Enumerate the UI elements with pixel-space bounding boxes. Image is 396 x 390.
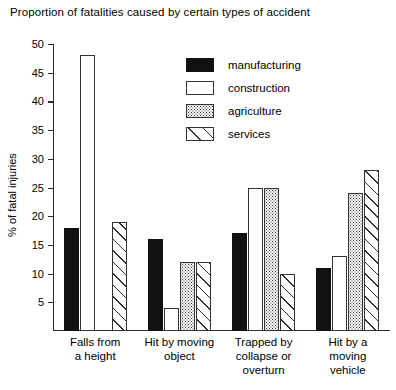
- x-axis-label-line: object: [137, 349, 221, 363]
- bar-manufacturing-0: [64, 228, 79, 331]
- x-axis-label-line: collapse or: [222, 349, 306, 363]
- legend-item-construction: construction: [186, 78, 346, 97]
- x-axis-label-line: Hit by moving: [137, 335, 221, 349]
- x-axis-label-line: a height: [53, 349, 137, 363]
- bar-manufacturing-2: [232, 233, 247, 331]
- y-tick-mark: 30: [48, 159, 53, 160]
- legend-item-services: services: [186, 124, 346, 143]
- x-axis-label-line: moving: [306, 349, 390, 363]
- y-tick-mark: 40: [48, 101, 53, 102]
- bar-construction-0: [80, 55, 95, 331]
- y-tick-label: 15: [32, 239, 44, 251]
- x-axis-label-line: Hit by a: [306, 335, 390, 349]
- legend-item-agriculture: agriculture: [186, 101, 346, 120]
- y-tick-label: 40: [32, 95, 44, 107]
- x-axis-label-line: Trapped by: [222, 335, 306, 349]
- y-tick-mark: 15: [48, 245, 53, 246]
- y-tick-mark: 10: [48, 274, 53, 275]
- bar-construction-3: [332, 256, 347, 331]
- chart-legend: manufacturingconstructionagricultureserv…: [186, 55, 346, 147]
- y-tick-label: 50: [32, 38, 44, 50]
- bar-services-1: [196, 262, 211, 331]
- y-tick-mark: 20: [48, 216, 53, 217]
- y-axis-title: % of fatal injuries: [6, 135, 18, 255]
- y-tick-mark: 45: [48, 73, 53, 74]
- legend-swatch-construction: [186, 81, 214, 95]
- x-axis-label-2: Trapped bycollapse oroverturn: [222, 335, 306, 377]
- bar-manufacturing-1: [148, 239, 163, 331]
- bar-construction-1: [164, 308, 179, 331]
- bar-services-2: [280, 274, 295, 331]
- legend-label-manufacturing: manufacturing: [228, 59, 301, 71]
- y-tick-label: 30: [32, 153, 44, 165]
- x-axis-category-labels: Falls froma heightHit by movingobjectTra…: [53, 335, 390, 390]
- y-tick-label: 5: [38, 296, 44, 308]
- legend-swatch-services: [186, 127, 214, 141]
- x-axis-label-line: Falls from: [53, 335, 137, 349]
- x-axis-label-line: overturn: [222, 363, 306, 377]
- bar-services-0: [112, 222, 127, 331]
- y-tick-label: 45: [32, 67, 44, 79]
- y-tick-mark: 50: [48, 44, 53, 45]
- x-axis-label-0: Falls froma height: [53, 335, 137, 363]
- legend-swatch-agriculture: [186, 104, 214, 118]
- bar-agriculture-2: [264, 188, 279, 332]
- y-tick-mark: 25: [48, 188, 53, 189]
- bar-services-3: [364, 170, 379, 331]
- x-axis-label-1: Hit by movingobject: [137, 335, 221, 363]
- y-tick-label: 20: [32, 210, 44, 222]
- legend-label-agriculture: agriculture: [228, 105, 282, 117]
- legend-label-construction: construction: [228, 82, 290, 94]
- x-axis-label-3: Hit by amovingvehicle: [306, 335, 390, 377]
- legend-swatch-manufacturing: [186, 58, 214, 72]
- chart-title: Proportion of fatalities caused by certa…: [10, 6, 310, 18]
- bar-construction-2: [248, 188, 263, 332]
- legend-label-services: services: [228, 128, 270, 140]
- x-axis-label-line: vehicle: [306, 363, 390, 377]
- y-tick-mark: 35: [48, 130, 53, 131]
- y-tick-label: 35: [32, 124, 44, 136]
- y-axis-line: [53, 44, 54, 331]
- legend-item-manufacturing: manufacturing: [186, 55, 346, 74]
- y-tick-label: 10: [32, 268, 44, 280]
- bar-agriculture-3: [348, 193, 363, 331]
- bar-agriculture-1: [180, 262, 195, 331]
- y-tick-mark: 5: [48, 302, 53, 303]
- accident-fatalities-bar-chart: Proportion of fatalities caused by certa…: [0, 0, 396, 390]
- y-tick-label: 25: [32, 182, 44, 194]
- bar-manufacturing-3: [316, 268, 331, 331]
